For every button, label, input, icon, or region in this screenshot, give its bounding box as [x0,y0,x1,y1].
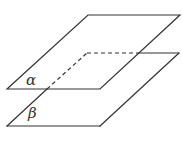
beta-label: β [28,106,37,121]
diagram-canvas: α β [0,0,182,142]
beta-left-edge-hidden [47,53,87,89]
alpha-label: α [26,73,36,88]
beta-right-edge [100,53,179,126]
beta-left-edge-visible [7,89,47,126]
